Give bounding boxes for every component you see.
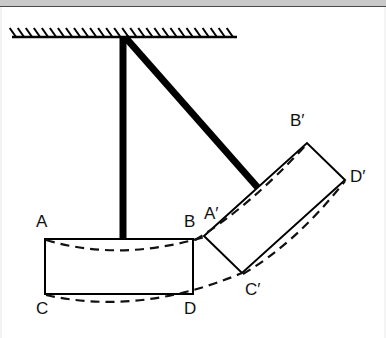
hatch-tick [114,28,120,37]
figure-root: A B C D A′ B′ C′ D′ [0,0,386,338]
hatch-tick [227,28,233,37]
body-original-ABCD [45,239,193,294]
label-B: B [184,213,195,230]
ceiling-hatching-group [10,28,233,37]
hatch-tick [211,28,217,37]
hatch-tick [66,28,72,37]
hatch-tick [26,28,32,37]
label-C-prime: C′ [245,281,260,298]
hatch-tick [170,28,176,37]
hatch-tick [162,28,168,37]
hatch-tick [10,28,16,37]
hatch-tick [178,28,184,37]
hatch-tick [82,28,88,37]
hatch-tick [146,28,152,37]
hatch-tick [42,28,48,37]
label-D: D [184,300,196,317]
hatch-tick [74,28,80,37]
hatch-tick [18,28,24,37]
hatch-tick [130,28,136,37]
hatch-tick [195,28,201,37]
label-B-prime: B′ [290,112,305,129]
hatch-tick [106,28,112,37]
hatch-tick [50,28,56,37]
mechanics-diagram [0,0,386,338]
hatch-tick [58,28,64,37]
hatch-tick [138,28,144,37]
hatch-tick [98,28,104,37]
hatch-tick [90,28,96,37]
hatch-tick [34,28,40,37]
hatch-tick [219,28,225,37]
label-D-prime: D′ [350,168,365,185]
label-C: C [36,300,48,317]
hatch-tick [154,28,160,37]
hatch-tick [186,28,192,37]
label-A: A [36,213,47,230]
hatch-tick [203,28,209,37]
diagonal-rod [125,37,259,189]
label-A-prime: A′ [204,205,219,222]
